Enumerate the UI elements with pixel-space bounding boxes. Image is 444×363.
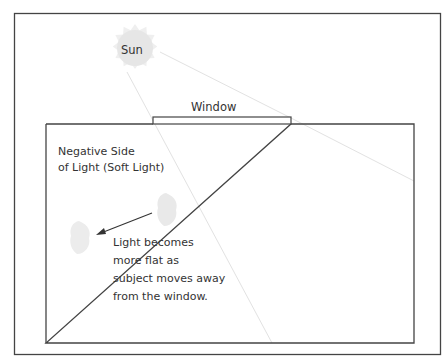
note-line-1: Light becomes: [113, 234, 225, 252]
window-shape: [153, 117, 291, 124]
arrow-icon: [96, 213, 152, 235]
sun-label: Sun: [121, 43, 143, 57]
subject-near-window: [157, 193, 176, 226]
outer-frame: [15, 14, 441, 355]
note-line-4: from the window.: [113, 288, 225, 306]
flat-light-note: Light becomes more flat as subject moves…: [113, 234, 225, 306]
window-label: Window: [191, 100, 236, 114]
negative-side-line-2: of Light (Soft Light): [58, 160, 164, 176]
negative-side-label: Negative Side of Light (Soft Light): [58, 144, 164, 176]
note-line-3: subject moves away: [113, 270, 225, 288]
note-line-2: more flat as: [113, 252, 225, 270]
diagram-canvas: [0, 0, 444, 363]
negative-side-line-1: Negative Side: [58, 144, 164, 160]
subject-away-from-window: [70, 221, 89, 254]
